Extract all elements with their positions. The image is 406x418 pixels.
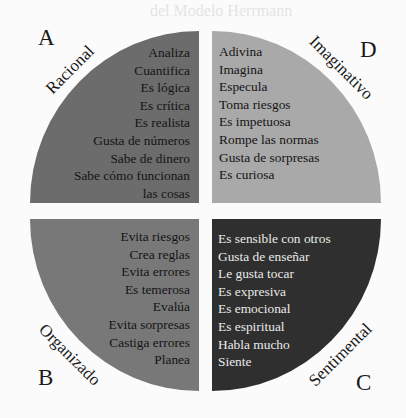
list-item: Crea reglas <box>109 246 190 264</box>
list-item: Es crítica <box>74 97 190 115</box>
list-item: Sabe cómo funcionan <box>74 167 190 185</box>
list-item: Es temerosa <box>109 281 190 299</box>
quadrant-a-items: Analiza Cuantifica Es lógica Es crítica … <box>74 44 190 202</box>
quadrant-c-items: Es sensible con otros Gusta de enseñar L… <box>218 230 331 371</box>
list-item: Planea <box>109 351 190 369</box>
quadrant-a-letter: A <box>38 25 55 51</box>
list-item: las cosas <box>74 185 190 203</box>
list-item: Es emocional <box>218 300 331 318</box>
list-item: Gusta de sorpresas <box>219 149 319 167</box>
list-item: Imagina <box>219 61 319 79</box>
list-item: Es sensible con otros <box>218 230 331 248</box>
quadrant-d-items: Adivina Imagina Especula Toma riesgos Es… <box>219 43 319 184</box>
quadrant-c-letter: C <box>356 370 371 396</box>
list-item: Evita errores <box>109 263 190 281</box>
quadrant-c-sentimental: Es sensible con otros Gusta de enseñar L… <box>212 219 381 391</box>
list-item: Especula <box>219 78 319 96</box>
list-item: Castiga errores <box>109 334 190 352</box>
list-item: Es espiritual <box>218 318 331 336</box>
list-item: Toma riesgos <box>219 96 319 114</box>
quadrant-d-imaginativo: Adivina Imagina Especula Toma riesgos Es… <box>212 31 381 203</box>
list-item: Cuantifica <box>74 62 190 80</box>
list-item: Rompe las normas <box>219 131 319 149</box>
list-item: Es expresiva <box>218 283 331 301</box>
list-item: Evalúa <box>109 298 190 316</box>
quadrant-d-letter: D <box>360 37 377 63</box>
quadrant-b-organizado: Evita riesgos Crea reglas Evita errores … <box>30 219 199 391</box>
quadrant-b-items: Evita riesgos Crea reglas Evita errores … <box>109 228 190 369</box>
ghost-heading: del Modelo Herrmann <box>150 2 292 20</box>
list-item: Evita sorpresas <box>109 316 190 334</box>
quadrant-b-letter: B <box>38 365 53 391</box>
list-item: Es lógica <box>74 79 190 97</box>
list-item: Sabe de dinero <box>74 150 190 168</box>
list-item: Es realista <box>74 114 190 132</box>
list-item: Evita riesgos <box>109 228 190 246</box>
quadrant-a-racional: Analiza Cuantifica Es lógica Es crítica … <box>30 31 199 203</box>
list-item: Gusta de enseñar <box>218 248 331 266</box>
list-item: Gusta de números <box>74 132 190 150</box>
list-item: Le gusta tocar <box>218 265 331 283</box>
list-item: Es impetuosa <box>219 113 319 131</box>
list-item: Es curiosa <box>219 166 319 184</box>
list-item: Habla mucho <box>218 336 331 354</box>
